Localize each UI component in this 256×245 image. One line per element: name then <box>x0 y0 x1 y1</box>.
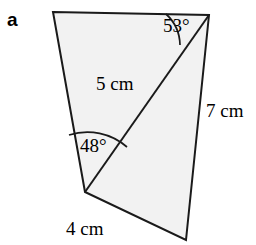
geometry-figure: a 5 cm 7 cm 4 cm 53° 48° <box>0 0 256 245</box>
part-label-a: a <box>7 10 18 29</box>
bottom-side-length-label: 4 cm <box>66 219 103 238</box>
figure-canvas <box>0 0 256 245</box>
right-side-length-label: 7 cm <box>206 101 243 120</box>
angle-label-48: 48° <box>80 136 107 155</box>
diagonal-length-label: 5 cm <box>96 74 133 93</box>
angle-label-53: 53° <box>163 16 190 35</box>
